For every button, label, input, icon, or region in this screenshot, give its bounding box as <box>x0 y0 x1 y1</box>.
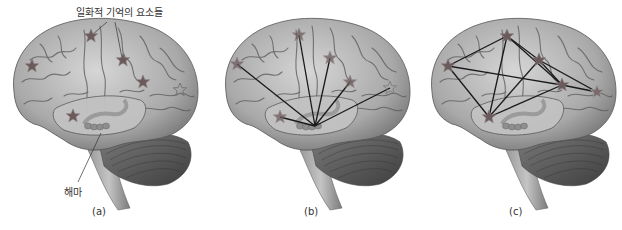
episodic-memory-elements-label: 일화적 기억의 요소들 <box>76 4 163 19</box>
panel-label-c: (c) <box>509 206 522 217</box>
panel-label-a: (a) <box>92 206 106 217</box>
brain-panel-c <box>431 18 616 210</box>
hippocampus-label: 해마 <box>64 184 82 199</box>
figure-canvas <box>0 0 622 230</box>
brain-memory-figure: 일화적 기억의 요소들 해마 (a) (b) (c) <box>0 0 622 230</box>
brain-panel-a <box>13 18 198 210</box>
panel-label-b: (b) <box>304 206 318 217</box>
brain-panel-b <box>225 18 410 210</box>
